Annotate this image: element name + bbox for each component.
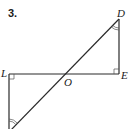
label-o: O	[64, 76, 72, 88]
label-l: L	[0, 67, 7, 79]
right-angle-mark-e	[114, 69, 119, 74]
triangle-figure: 3. D E L O	[0, 0, 131, 129]
label-e: E	[120, 69, 128, 81]
angle-arc-bottom-inner	[9, 121, 16, 125]
right-angle-mark-l	[9, 74, 14, 79]
angle-arc-d-inner	[113, 26, 119, 29]
label-d: D	[116, 7, 125, 19]
problem-number: 3.	[8, 7, 17, 19]
